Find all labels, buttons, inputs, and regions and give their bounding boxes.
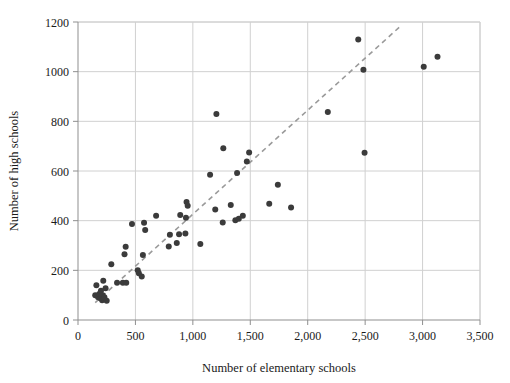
data-point — [140, 252, 146, 258]
data-point — [325, 109, 331, 115]
data-point — [220, 145, 226, 151]
data-point — [141, 220, 147, 226]
data-point — [246, 149, 252, 155]
data-point — [100, 278, 106, 284]
data-point — [244, 159, 250, 165]
data-point — [108, 261, 114, 267]
data-point — [174, 240, 180, 246]
y-tick-label: 1000 — [45, 65, 69, 79]
x-tick-label: 1,000 — [179, 329, 206, 343]
x-tick-label: 2,000 — [294, 329, 321, 343]
data-point — [213, 111, 219, 117]
data-point — [153, 213, 159, 219]
data-point — [185, 203, 191, 209]
y-tick-label: 0 — [63, 314, 69, 328]
data-point — [114, 280, 120, 286]
data-point — [166, 243, 172, 249]
data-point — [212, 206, 218, 212]
x-tick-label: 2,500 — [352, 329, 379, 343]
data-point — [362, 150, 368, 156]
y-axis-title: Number of high schools — [7, 111, 21, 232]
data-point — [177, 212, 183, 218]
x-tick-label: 3,000 — [409, 329, 436, 343]
x-tick-label: 1,500 — [237, 329, 264, 343]
data-point — [142, 227, 148, 233]
data-point — [122, 251, 128, 257]
data-point — [360, 67, 366, 73]
chart-svg: 05001,0001,5002,0002,5003,0003,500 02004… — [0, 0, 510, 383]
data-point — [207, 172, 213, 178]
data-point — [139, 274, 145, 280]
data-point — [288, 205, 294, 211]
data-point — [266, 201, 272, 207]
y-tick-label: 600 — [51, 165, 69, 179]
data-point — [182, 231, 188, 237]
data-point — [220, 219, 226, 225]
data-point — [355, 36, 361, 42]
y-tick-label: 1200 — [45, 16, 69, 30]
data-point — [123, 244, 129, 250]
data-point — [275, 182, 281, 188]
chart-background — [0, 0, 510, 383]
x-axis-title: Number of elementary schools — [202, 361, 356, 375]
data-point — [183, 215, 189, 221]
data-point — [123, 280, 129, 286]
x-tick-label: 0 — [75, 329, 81, 343]
y-tick-label: 400 — [51, 214, 69, 228]
x-tick-label: 3,500 — [467, 329, 494, 343]
data-point — [129, 221, 135, 227]
data-point — [421, 64, 427, 70]
data-point — [93, 282, 99, 288]
scatter-chart-figure: 05001,0001,5002,0002,5003,0003,500 02004… — [0, 0, 510, 383]
data-point — [240, 213, 246, 219]
data-point — [103, 285, 109, 291]
data-point — [167, 232, 173, 238]
data-point — [197, 241, 203, 247]
data-point — [176, 231, 182, 237]
y-tick-label: 200 — [51, 264, 69, 278]
data-point — [234, 170, 240, 176]
data-point — [228, 202, 234, 208]
x-tick-label: 500 — [126, 329, 144, 343]
data-point — [104, 298, 110, 304]
data-point — [435, 54, 441, 60]
y-tick-label: 800 — [51, 115, 69, 129]
